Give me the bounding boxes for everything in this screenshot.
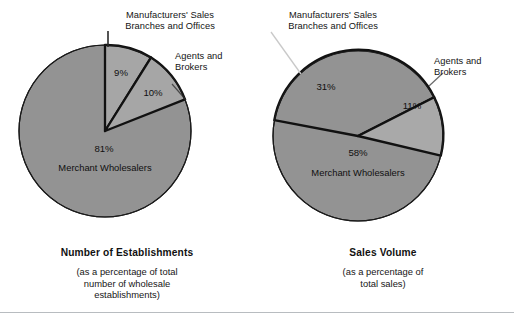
pie-chart-left-graphic <box>0 0 257 250</box>
pie-left-percent-manufacturers: 9% <box>108 68 134 78</box>
pie-right-percent-agents: 11% <box>396 101 428 111</box>
callout-right-agents-brokers: Agents and Brokers <box>434 56 512 79</box>
callout-left-agents-brokers: Agents and Brokers <box>175 51 259 74</box>
pie-left-percent-agents: 10% <box>138 88 168 98</box>
caption-subtitle-right: (as a percentage of total sales) <box>268 266 498 289</box>
caption-subtitle-left: (as a percentage of total number of whol… <box>12 266 242 301</box>
pie-chart-right-graphic <box>257 0 514 250</box>
caption-number-of-establishments: Number of Establishments (as a percentag… <box>12 246 242 301</box>
pie-left-percent-merchant: 81% <box>87 144 121 154</box>
pie-right-label-merchant-wholesalers: Merchant Wholesalers <box>293 168 423 178</box>
figure-bottom-rule <box>0 312 514 313</box>
leader-line-right-manufacturers <box>271 32 301 74</box>
chart-panel-number-of-establishments: 9% 10% 81% Merchant Wholesalers Number o… <box>0 0 257 320</box>
caption-sales-volume: Sales Volume (as a percentage of total s… <box>268 246 498 289</box>
callout-left-manufacturers: Manufacturers' Sales Branches and Office… <box>104 10 236 33</box>
pie-left-label-merchant-wholesalers: Merchant Wholesalers <box>40 163 170 173</box>
pie-right-percent-merchant: 58% <box>341 148 375 158</box>
callout-right-manufacturers: Manufacturers' Sales Branches and Office… <box>262 10 404 33</box>
chart-panel-sales-volume: 31% 11% 58% Merchant Wholesalers Sales V… <box>257 0 514 320</box>
pie-right-percent-manufacturers: 31% <box>309 82 343 92</box>
pie-chart-figure: 9% 10% 81% Merchant Wholesalers Number o… <box>0 0 514 320</box>
caption-title-right: Sales Volume <box>268 246 498 259</box>
caption-title-left: Number of Establishments <box>12 246 242 259</box>
